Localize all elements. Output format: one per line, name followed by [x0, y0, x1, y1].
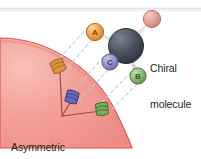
binding-site-label-line1: Asymmetric — [11, 141, 65, 153]
chiral-molecule-label: Chiral molecule — [150, 38, 191, 134]
atom-c-label: C — [107, 58, 113, 67]
atom-d-sphere — [143, 10, 160, 27]
pocket-green — [95, 102, 108, 117]
atom-b: B — [130, 68, 146, 84]
atom-b-label: B — [135, 72, 141, 81]
atom-a-label: A — [92, 28, 98, 37]
chiral-molecule-label-line2: molecule — [150, 98, 191, 110]
chiral-molecule-label-line1: Chiral — [150, 62, 191, 74]
chiral-recognition-figure: A C B Chiral molecule Asymmetric binding… — [0, 0, 201, 159]
atom-d — [143, 10, 160, 27]
binding-site-label: Asymmetric binding site — [11, 117, 65, 159]
dash-a-upper — [57, 27, 88, 61]
dash-b-lower — [109, 84, 137, 112]
dash-b-upper — [103, 72, 131, 101]
pocket-green-body — [95, 102, 108, 117]
atom-a: A — [86, 23, 103, 40]
atom-c: C — [102, 54, 118, 70]
